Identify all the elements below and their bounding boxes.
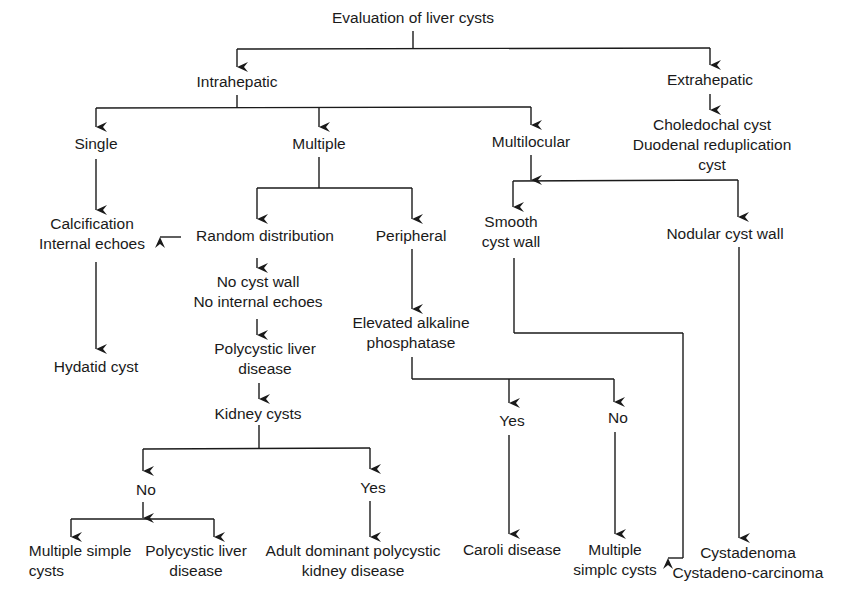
node-label: No cyst wall [193,272,322,292]
node-choledochal-cyst: Choledochal cyst Duodenal reduplication … [633,115,792,175]
node-label: Random distribution [196,226,334,246]
node-label: Caroli disease [463,540,561,560]
node-label: disease [145,561,247,581]
node-intrahepatic: Intrahepatic [197,72,278,92]
node-evaluation-of-liver-cysts: Evaluation of liver cysts [332,8,494,28]
node-label: Nodular cyst wall [666,224,783,244]
node-label: cyst wall [482,232,541,252]
node-peripheral: Peripheral [376,226,447,246]
node-adult-dominant-polycystic-kidney-disease: Adult dominant polycystic kidney disease [266,541,441,581]
node-label: Choledochal cyst [633,115,792,135]
node-label: Multiple [573,540,657,560]
node-multiple-simple-cysts-left: Multiple simple cysts [29,541,132,581]
node-hydatid-cyst: Hydatid cyst [54,357,138,377]
node-kidney-cysts: Kidney cysts [214,404,301,424]
node-no-simple-branch: No [608,408,628,428]
node-label: Hydatid cyst [54,357,138,377]
node-single: Single [74,134,117,154]
node-label: Calcification [39,214,145,234]
node-elevated-alkaline-phosphatase: Elevated alkaline phosphatase [352,313,469,353]
node-label: Smooth [482,212,541,232]
node-label: Adult dominant polycystic [266,541,441,561]
liver-cyst-flowchart: Evaluation of liver cysts Intrahepatic E… [0,0,843,604]
node-nodular-cyst-wall: Nodular cyst wall [666,224,783,244]
node-label: Polycystic liver [214,339,316,359]
node-label: Kidney cysts [214,404,301,424]
node-label: Cystadeno-carcinoma [673,563,824,583]
node-polycystic-liver-disease: Polycystic liver disease [214,339,316,379]
node-yes-caroli-branch: Yes [499,411,524,431]
node-multilocular: Multilocular [492,132,570,152]
node-label: Duodenal reduplication [633,135,792,155]
node-label: disease [214,359,316,379]
node-label: Multilocular [492,132,570,152]
node-label: Multiple simple [29,541,132,561]
node-label: Evaluation of liver cysts [332,8,494,28]
node-label: Polycystic liver [145,541,247,561]
node-caroli-disease: Caroli disease [463,540,561,560]
node-label: Single [74,134,117,154]
node-cystadenoma: Cystadenoma Cystadeno-carcinoma [673,543,824,583]
node-label: Extrahepatic [667,70,753,90]
node-label: cyst [633,155,792,175]
node-no-kidney-cysts: No [136,480,156,500]
node-label: simplc cysts [573,560,657,580]
node-label: Cystadenoma [673,543,824,563]
node-label: cysts [29,561,132,581]
node-random-distribution: Random distribution [196,226,334,246]
node-label: Intrahepatic [197,72,278,92]
node-label: kidney disease [266,561,441,581]
node-label: Multiple [292,134,345,154]
node-yes-kidney-cysts: Yes [360,478,385,498]
node-label: No internal echoes [193,292,322,312]
node-extrahepatic: Extrahepatic [667,70,753,90]
node-label: Yes [360,478,385,498]
node-label: Elevated alkaline [352,313,469,333]
node-label: phosphatase [352,333,469,353]
node-label: No [608,408,628,428]
node-label: Internal echoes [39,234,145,254]
node-label: Peripheral [376,226,447,246]
node-calcification: Calcification Internal echoes [39,214,145,254]
node-polycystic-liver-disease-leaf: Polycystic liver disease [145,541,247,581]
node-multiple-simple-cysts-right: Multiple simplc cysts [573,540,657,580]
node-multiple: Multiple [292,134,345,154]
node-smooth-cyst-wall: Smooth cyst wall [482,212,541,252]
connector-lines [0,0,843,604]
node-label: No [136,480,156,500]
node-label: Yes [499,411,524,431]
node-no-cyst-wall: No cyst wall No internal echoes [193,272,322,312]
